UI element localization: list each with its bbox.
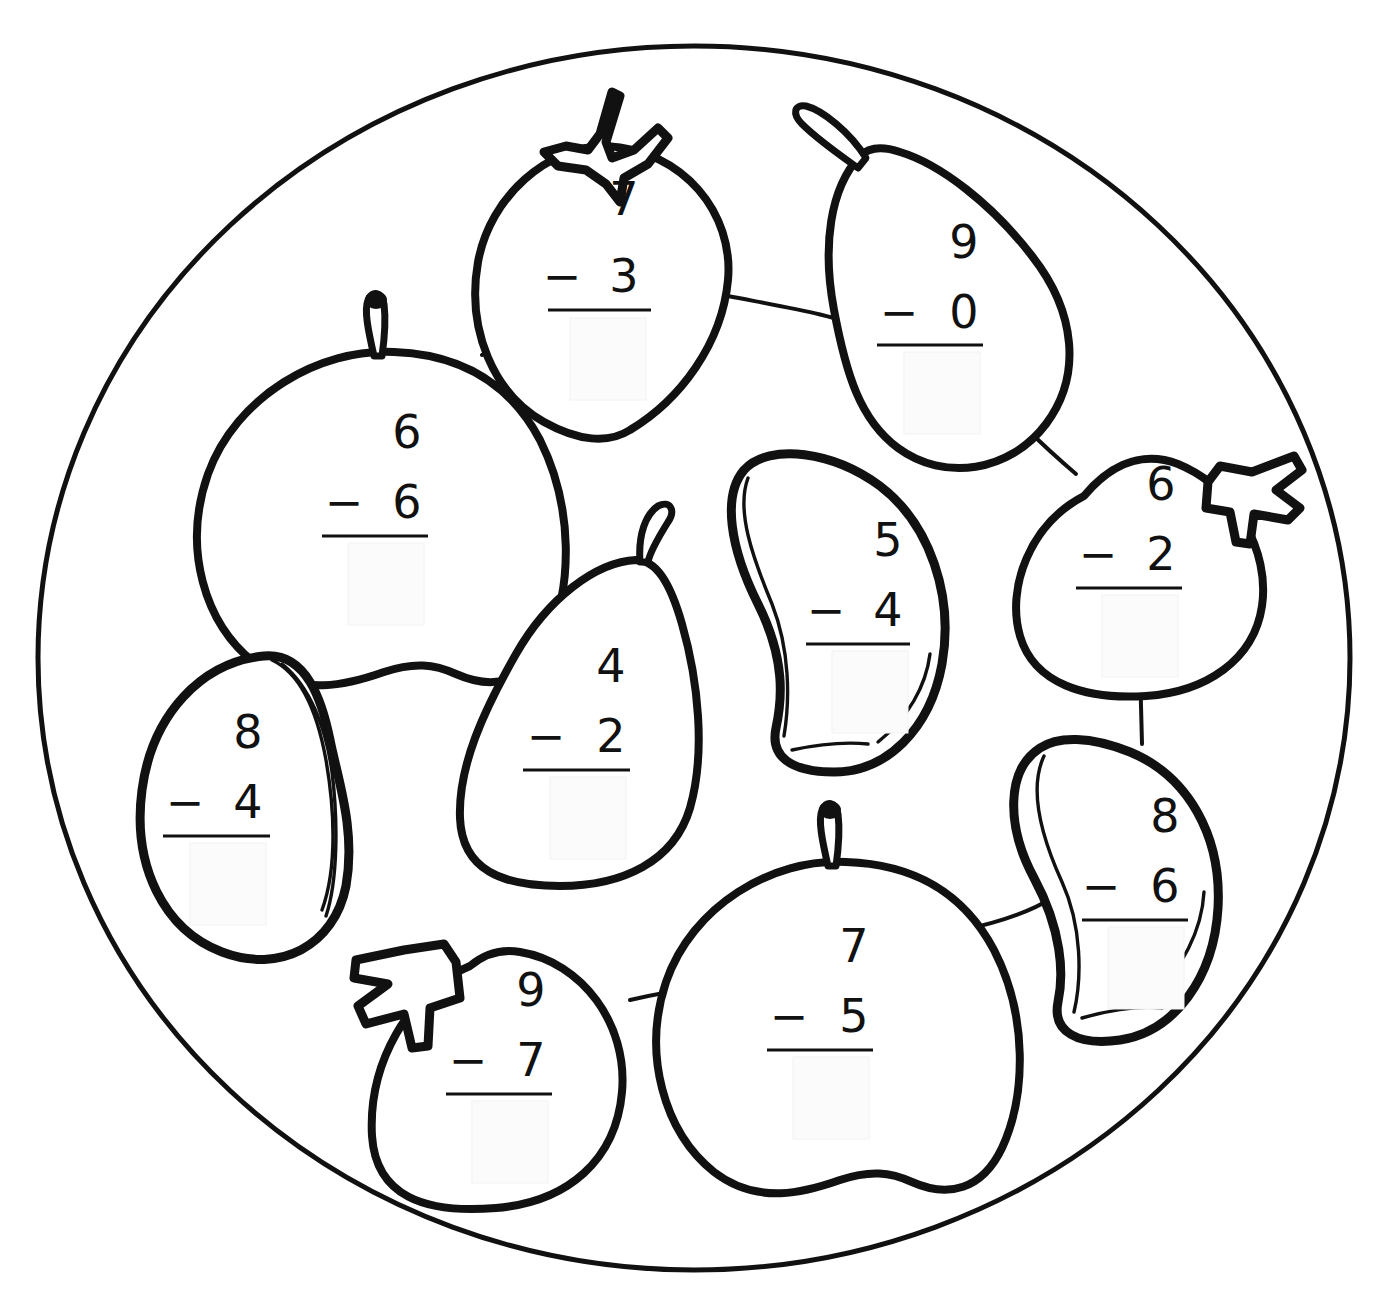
answer-box: [570, 318, 646, 400]
minuend: 7: [609, 172, 638, 226]
minuend: 5: [873, 513, 902, 567]
answer-box: [190, 843, 266, 925]
fruit-plate-artwork: 7 − 3 9 − 0 6 − 6: [0, 0, 1383, 1289]
minus-sign: −: [1082, 859, 1121, 913]
subtrahend: 2: [596, 709, 625, 763]
answer-box: [832, 651, 908, 733]
subtrahend: 2: [1146, 527, 1175, 581]
answer-box: [793, 1057, 869, 1139]
minuend: 8: [233, 705, 262, 759]
minus-sign: −: [807, 583, 846, 637]
subtrahend: 5: [839, 989, 868, 1043]
answer-box: [550, 777, 626, 859]
answer-box: [348, 543, 424, 625]
subtrahend: 4: [233, 775, 262, 829]
subtrahend: 4: [873, 583, 902, 637]
minuend: 8: [1150, 789, 1179, 843]
minuend: 9: [516, 963, 545, 1017]
subtrahend: 7: [516, 1033, 545, 1087]
minus-sign: −: [166, 775, 205, 829]
minus-sign: −: [1079, 527, 1118, 581]
minus-sign: −: [543, 249, 582, 303]
minuend: 6: [392, 405, 421, 459]
worksheet-page: 7 − 3 9 − 0 6 − 6: [0, 0, 1383, 1289]
answer-box: [472, 1101, 548, 1183]
minuend: 6: [1146, 457, 1175, 511]
answer-box: [904, 352, 980, 434]
minus-sign: −: [880, 285, 919, 339]
subtrahend: 0: [949, 285, 978, 339]
subtrahend: 3: [609, 249, 638, 303]
minus-sign: −: [325, 475, 364, 529]
subtrahend: 6: [1150, 859, 1179, 913]
answer-box: [1108, 927, 1184, 1009]
minus-sign: −: [449, 1033, 488, 1087]
minuend: 7: [839, 919, 868, 973]
minus-sign: −: [770, 989, 809, 1043]
minuend: 4: [596, 639, 625, 693]
minuend: 9: [949, 215, 978, 269]
subtrahend: 6: [392, 475, 421, 529]
minus-sign: −: [527, 709, 566, 763]
answer-box: [1102, 595, 1178, 677]
